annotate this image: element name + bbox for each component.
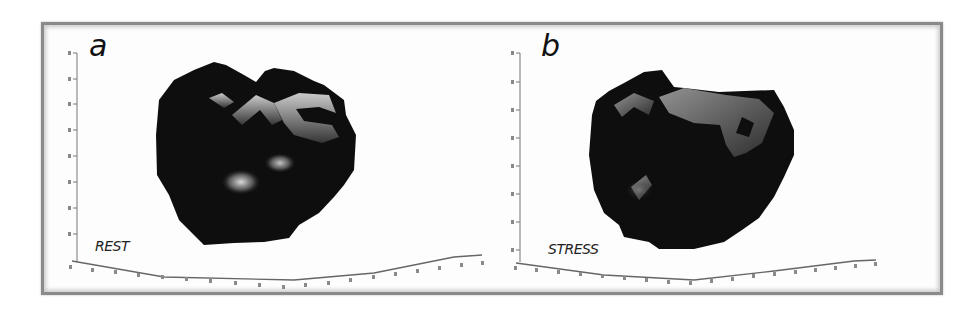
y-axis bbox=[73, 53, 77, 262]
x-axis bbox=[516, 260, 876, 280]
x-axis-tick-labels bbox=[69, 261, 484, 289]
x-axis bbox=[72, 255, 482, 280]
condition-label-rest: REST bbox=[95, 238, 129, 254]
y-axis-tick-labels bbox=[511, 51, 514, 252]
figure-frame: a REST bbox=[41, 22, 943, 295]
y-axis-tick-labels bbox=[68, 51, 71, 236]
panel-letter-a: a bbox=[89, 31, 107, 61]
y-axis bbox=[516, 53, 520, 262]
panel-rest: a REST bbox=[44, 25, 494, 292]
condition-label-stress: STRESS bbox=[548, 241, 598, 257]
panel-stress: b STRESS bbox=[494, 25, 946, 292]
panel-letter-b: b bbox=[541, 31, 560, 61]
rest-perfusion-blob bbox=[156, 62, 356, 245]
rest-surface-plot bbox=[44, 25, 494, 295]
